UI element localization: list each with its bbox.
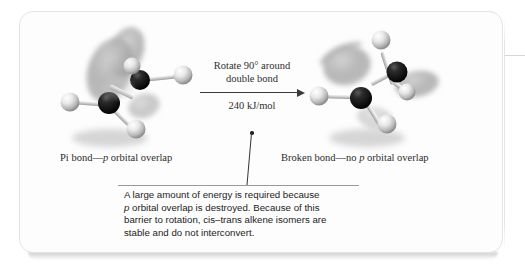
arrow-condition-label: Rotate 90° around double bond xyxy=(196,60,308,85)
caption-right-before: Broken bond—no xyxy=(281,152,359,163)
caption-left: Pi bond—p orbital overlap xyxy=(60,152,172,163)
carbon-atom-lower xyxy=(350,87,372,109)
arrow-energy-label: 240 kJ/mol xyxy=(196,99,308,112)
card-shadow xyxy=(28,252,498,259)
leader-line xyxy=(230,130,260,188)
explanatory-note: A large amount of energy is required bec… xyxy=(124,189,374,239)
page-edge-horizontal-line xyxy=(505,55,525,56)
arrow-condition-line2: double bond xyxy=(196,73,308,86)
hydrogen-atom-3 xyxy=(378,115,397,134)
note-line-4: stable and do not interconvert. xyxy=(124,227,374,240)
arrow-head-icon xyxy=(297,89,305,97)
caption-right: Broken bond—no p orbital overlap xyxy=(281,152,429,163)
note-line-2: p orbital overlap is destroyed. Because … xyxy=(124,202,374,215)
hydrogen-atom-3 xyxy=(127,120,146,139)
molecule-ground-shadow xyxy=(329,129,405,147)
molecule-broken-bond xyxy=(305,22,475,154)
orbital-overlap-region xyxy=(102,77,134,99)
caption-left-after: orbital overlap xyxy=(108,152,172,163)
note-line-2-after: orbital overlap is destroyed. Because of… xyxy=(129,202,319,213)
hydrogen-atom-1 xyxy=(174,66,193,85)
arrow-condition-line1: Rotate 90° around xyxy=(214,60,291,71)
reaction-arrow-block: Rotate 90° around double bond 240 kJ/mol xyxy=(196,60,308,112)
reaction-arrow xyxy=(196,87,308,98)
p-orbital-lobe-upper-left xyxy=(319,42,375,90)
page-edge-vertical-line xyxy=(504,18,505,250)
caption-left-before: Pi bond— xyxy=(60,152,103,163)
hydrogen-atom-4 xyxy=(124,58,141,75)
note-line-1: A large amount of energy is required bec… xyxy=(124,189,374,202)
hydrogen-atom-2 xyxy=(61,93,80,112)
arrow-shaft xyxy=(200,92,300,93)
hydrogen-atom-2 xyxy=(310,87,329,106)
carbon-atom-upper xyxy=(387,62,408,83)
caption-right-after: orbital overlap xyxy=(364,152,428,163)
hydrogen-atom-4 xyxy=(399,84,416,101)
hydrogen-atom-1 xyxy=(372,31,391,50)
note-rule xyxy=(118,185,359,186)
note-line-3: barrier to rotation, cis–trans alkene is… xyxy=(124,214,374,227)
molecule-pi-bond-overlap xyxy=(48,22,218,154)
